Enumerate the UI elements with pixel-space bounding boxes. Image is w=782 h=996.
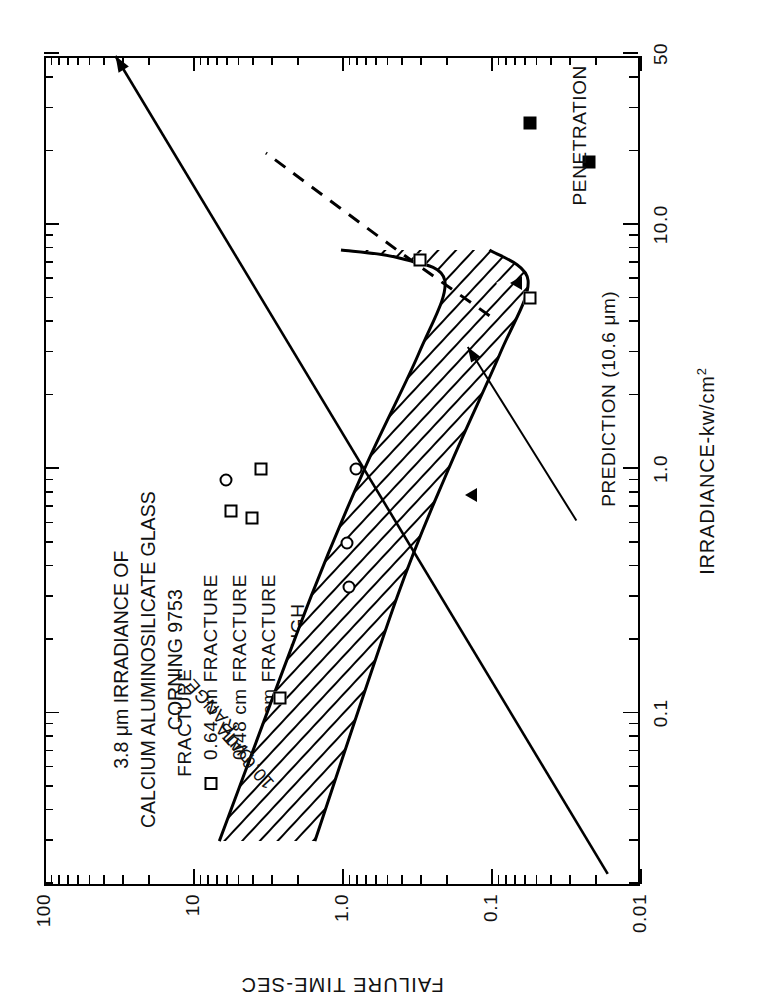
x-tick-label: 0.1 <box>650 699 672 727</box>
y-tick-label: 0.1 <box>480 894 502 952</box>
data-point-marker <box>413 253 426 266</box>
plot-area: 0.11.010.050 100101.00.10.01 FRACTURE <box>44 56 640 886</box>
open-triangle-icon <box>448 488 477 502</box>
data-point-marker <box>220 474 233 487</box>
y-tick-label: 1.0 <box>331 894 353 952</box>
data-range-band <box>219 250 528 841</box>
x-tick <box>44 52 59 54</box>
data-point-marker <box>342 580 355 593</box>
data-point-marker <box>493 276 511 290</box>
y-tick <box>640 869 642 884</box>
data-point-marker <box>523 292 536 305</box>
fracture-arrowhead <box>116 56 129 73</box>
y-tick-label: 10 <box>182 894 204 952</box>
open-triangle-icon <box>493 276 522 290</box>
prediction-annotation: PREDICTION (10.6 μm) <box>598 291 620 507</box>
y-tick-label: 0.01 <box>629 894 651 952</box>
prediction-leader-line <box>468 347 577 521</box>
data-point-marker <box>523 117 536 130</box>
y-axis-title: FAILURE TIME-SEC <box>240 973 443 996</box>
x-axis-title: IRRADIANCE-kw/cm2 <box>694 367 719 575</box>
y-tick <box>640 56 642 71</box>
y-tick-label: 100 <box>33 894 55 952</box>
x-tick-label: 10.0 <box>650 205 672 244</box>
data-point-marker <box>274 692 287 705</box>
data-point-marker <box>224 505 237 518</box>
x-tick <box>623 52 638 54</box>
x-tick-label: 50 <box>650 43 672 65</box>
data-point-marker <box>448 488 466 502</box>
data-point-marker <box>246 512 259 525</box>
data-point-marker <box>341 536 354 549</box>
penetration-annotation: PENETRATION <box>569 65 591 205</box>
data-point-marker <box>254 463 267 476</box>
data-point-marker <box>350 463 363 476</box>
chart-curves <box>44 56 638 884</box>
x-tick-label: 1.0 <box>650 455 672 483</box>
